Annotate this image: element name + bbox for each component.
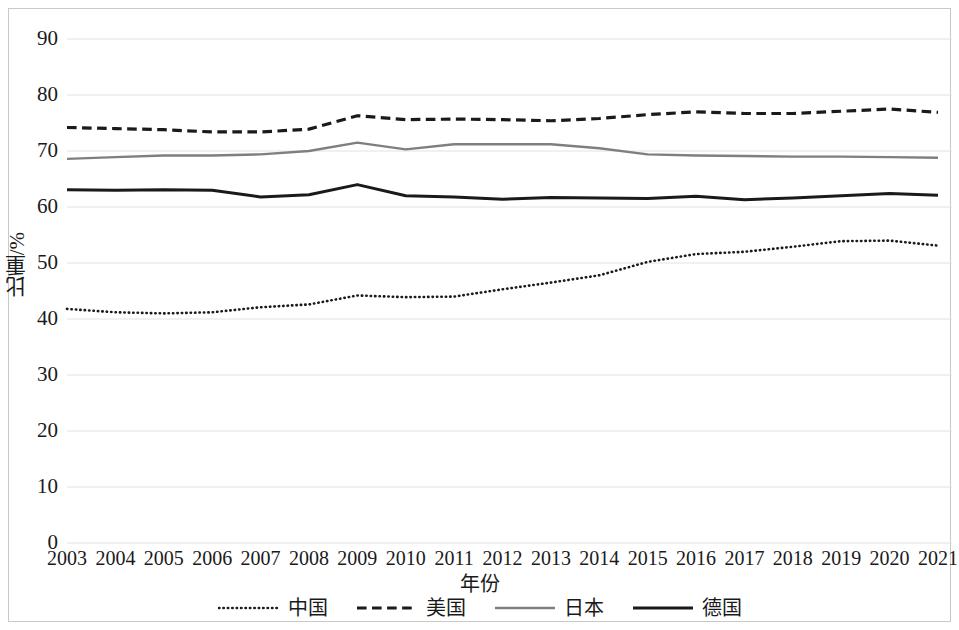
x-tick-label: 2016 — [669, 548, 723, 568]
legend-swatch-icon — [356, 601, 418, 615]
x-tick-label: 2012 — [476, 548, 530, 568]
y-tick-label: 40 — [12, 308, 58, 329]
x-tick-label: 2006 — [185, 548, 239, 568]
y-tick-label: 70 — [12, 140, 58, 161]
y-tick-label: 10 — [12, 476, 58, 497]
x-tick-label: 2011 — [427, 548, 481, 568]
legend-swatch-icon — [218, 601, 280, 615]
x-tick-label: 2003 — [40, 548, 94, 568]
chart-legend: 中国美国日本德国 — [0, 598, 959, 618]
x-tick-label: 2005 — [137, 548, 191, 568]
legend-item-中国[interactable]: 中国 — [218, 598, 328, 618]
chart-border — [8, 8, 951, 622]
chart-container: 9080706050403020100 20032004200520062007… — [0, 0, 959, 630]
legend-swatch-icon — [632, 601, 694, 615]
x-tick-label: 2009 — [330, 548, 384, 568]
x-tick-label: 2014 — [572, 548, 626, 568]
x-tick-label: 2010 — [379, 548, 433, 568]
x-tick-label: 2018 — [766, 548, 820, 568]
x-tick-label: 2019 — [814, 548, 868, 568]
y-tick-label: 20 — [12, 420, 58, 441]
legend-label: 德国 — [702, 598, 742, 618]
legend-item-美国[interactable]: 美国 — [356, 598, 466, 618]
legend-swatch-icon — [494, 601, 556, 615]
x-tick-label: 2007 — [234, 548, 288, 568]
legend-label: 中国 — [288, 598, 328, 618]
x-tick-label: 2013 — [524, 548, 578, 568]
x-tick-label: 2004 — [88, 548, 142, 568]
x-tick-label: 2017 — [717, 548, 771, 568]
legend-label: 美国 — [426, 598, 466, 618]
y-axis-title: 比重/% — [2, 232, 32, 297]
y-tick-label: 30 — [12, 364, 58, 385]
x-tick-label: 2021 — [911, 548, 959, 568]
y-tick-label: 60 — [12, 196, 58, 217]
legend-label: 日本 — [564, 598, 604, 618]
y-tick-label: 80 — [12, 84, 58, 105]
legend-item-德国[interactable]: 德国 — [632, 598, 742, 618]
x-tick-label: 2015 — [621, 548, 675, 568]
x-tick-label: 2008 — [282, 548, 336, 568]
legend-item-日本[interactable]: 日本 — [494, 598, 604, 618]
y-tick-label: 90 — [12, 28, 58, 49]
x-tick-label: 2020 — [863, 548, 917, 568]
x-axis-title: 年份 — [0, 568, 959, 597]
